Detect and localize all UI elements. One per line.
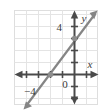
x-tick-label-neg4: −4: [24, 85, 36, 97]
point-y-intercept: [72, 36, 78, 42]
origin-label: 0: [62, 78, 68, 90]
coordinate-plane-figure: 4 −4 0 y x: [0, 0, 106, 112]
x-axis-label: x: [87, 58, 93, 70]
graph-canvas: 4 −4 0 y x: [0, 0, 106, 112]
y-tick-label-4: 4: [57, 21, 63, 33]
y-axis-label: y: [81, 12, 87, 24]
point-x-intercept: [48, 72, 54, 78]
